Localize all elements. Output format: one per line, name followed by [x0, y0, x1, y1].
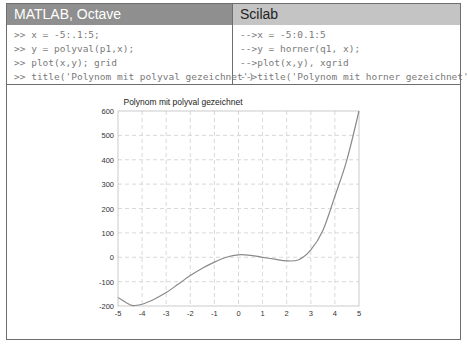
y-tick-label: -100: [99, 278, 114, 287]
x-tick-label: 2: [285, 309, 289, 318]
chart-title: Polynom mit polyval gezeichnet: [123, 97, 243, 107]
header-scilab: Scilab: [233, 4, 460, 25]
x-tick-label: 3: [309, 309, 313, 318]
code-line: -->x = -5:0.1:5: [240, 28, 460, 42]
y-tick-label: 400: [101, 156, 114, 165]
comparison-table: MATLAB, Octave Scilab >> x = -5:.1:5; >>…: [6, 3, 461, 340]
code-line: >> title('Polynom mit polyval gezeichnet…: [14, 70, 232, 84]
line-chart: Polynom mit polyval gezeichnet -5-4-3-2-…: [7, 85, 460, 339]
grid-lines: [118, 111, 359, 306]
x-tick-label: 4: [333, 309, 337, 318]
x-tick-label: -4: [139, 309, 146, 318]
y-tick-label: 200: [101, 205, 114, 214]
code-line: -->title('Polynom mit horner gezeichnet'…: [240, 70, 460, 84]
y-tick-label: 0: [110, 253, 114, 262]
x-tick-label: -5: [115, 309, 122, 318]
plot-figure: Polynom mit polyval gezeichnet -5-4-3-2-…: [7, 85, 460, 339]
code-line: >> plot(x,y); grid: [14, 56, 232, 70]
x-tick-label: -2: [187, 309, 194, 318]
y-tick-label: 500: [101, 131, 114, 140]
x-tick-label: -3: [163, 309, 170, 318]
y-tick-label: 100: [101, 229, 114, 238]
x-tick-label: 5: [357, 309, 361, 318]
scilab-code-block: -->x = -5:0.1:5 -->y = horner(q1, x); --…: [233, 25, 460, 85]
x-tick-label: -1: [211, 309, 218, 318]
code-line: >> x = -5:.1:5;: [14, 28, 232, 42]
x-tick-label: 1: [261, 309, 265, 318]
x-tick-label: 0: [236, 309, 240, 318]
y-tick-label: -200: [99, 302, 114, 311]
code-line: >> y = polyval(p1,x);: [14, 42, 232, 56]
tick-labels: -5-4-3-2-10123456005004003002001000-100-…: [99, 107, 361, 318]
header-matlab-octave: MATLAB, Octave: [7, 4, 233, 25]
code-line: -->plot(x,y), xgrid: [240, 56, 460, 70]
y-tick-label: 300: [101, 180, 114, 189]
y-tick-label: 600: [101, 107, 114, 116]
matlab-code-block: >> x = -5:.1:5; >> y = polyval(p1,x); >>…: [7, 25, 233, 85]
code-line: -->y = horner(q1, x);: [240, 42, 460, 56]
